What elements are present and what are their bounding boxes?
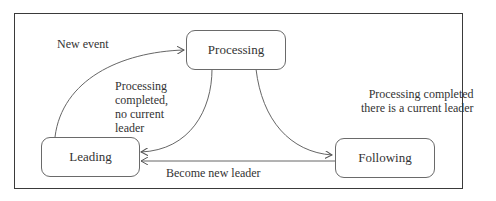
- label-line: leader: [115, 121, 168, 135]
- label-line: Processing completed: [361, 87, 474, 101]
- node-leading: Leading: [41, 137, 140, 177]
- label-line: completed,: [115, 93, 168, 107]
- node-leading-label: Leading: [69, 149, 112, 165]
- node-following: Following: [335, 138, 435, 178]
- edge-label-processing-to-following: Processing completed there is a current …: [361, 87, 474, 115]
- label-line: there is a current leader: [361, 101, 474, 115]
- label-line: no current: [115, 107, 168, 121]
- node-processing-label: Processing: [208, 42, 264, 58]
- edge-label-processing-to-leading: Processing completed, no current leader: [115, 79, 168, 135]
- label-line: Processing: [115, 79, 168, 93]
- edge-label-become-new-leader: Become new leader: [166, 166, 261, 180]
- node-following-label: Following: [358, 150, 411, 166]
- node-processing: Processing: [186, 30, 286, 70]
- edge-label-new-event: New event: [57, 37, 109, 51]
- edge-processing-to-following: [256, 69, 332, 155]
